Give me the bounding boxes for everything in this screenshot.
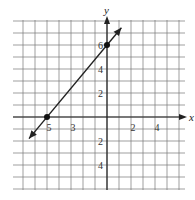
x-tick-label: 5 bbox=[47, 122, 52, 133]
x-tick-label: 4 bbox=[155, 122, 160, 133]
x-tick-label: 2 bbox=[131, 122, 136, 133]
y-tick-label: 4 bbox=[98, 160, 103, 171]
y-axis-label: y bbox=[103, 4, 109, 16]
y-tick-label: 6 bbox=[98, 40, 103, 51]
x-tick-label: 3 bbox=[71, 122, 76, 133]
y-axis-arrow-icon bbox=[104, 16, 110, 24]
x-axis-arrow-icon bbox=[179, 114, 187, 120]
coordinate-graph: xy532464224 bbox=[0, 0, 195, 200]
y-tick-label: 2 bbox=[98, 88, 103, 99]
x-axis-label: x bbox=[188, 111, 194, 123]
data-point bbox=[104, 42, 110, 48]
data-point bbox=[44, 114, 50, 120]
y-tick-label: 2 bbox=[98, 136, 103, 147]
y-tick-label: 4 bbox=[98, 64, 103, 75]
